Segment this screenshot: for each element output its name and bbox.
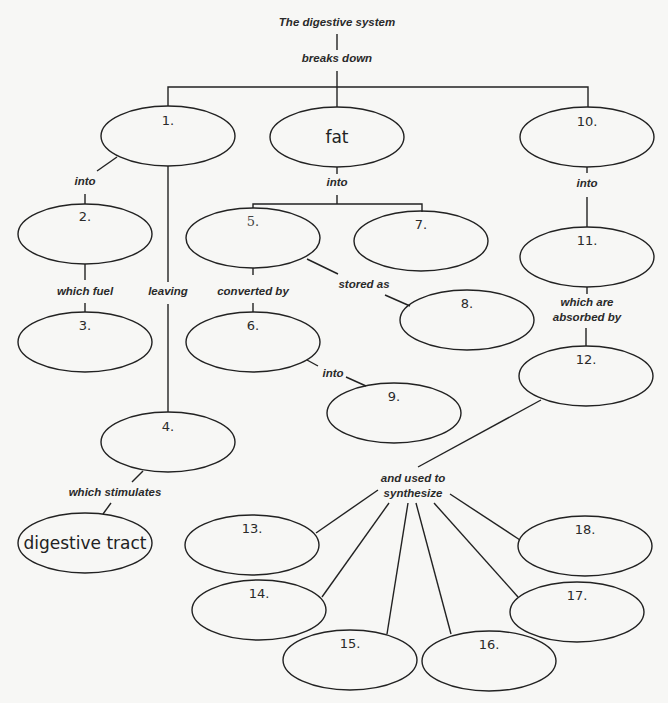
connector [97, 157, 117, 171]
node-11[interactable]: 11. [520, 227, 654, 287]
node-9-label: 9. [388, 389, 400, 404]
node-6-label: 6. [247, 318, 259, 333]
connector [416, 503, 451, 634]
connector [307, 360, 318, 366]
node-digestive-tract-label: digestive tract [23, 533, 146, 553]
node-1[interactable]: 1. [101, 106, 235, 166]
node-5[interactable]: 5. [186, 208, 320, 268]
link-which-stimulates: which stimulates [69, 486, 162, 498]
link-and-used-to: and used to [381, 472, 446, 484]
connector [346, 377, 366, 386]
node-12[interactable]: 12. [519, 346, 653, 406]
node-4-label: 4. [162, 419, 174, 434]
node-14-label: 14. [249, 586, 270, 601]
node-2[interactable]: 2. [18, 204, 152, 264]
node-8[interactable]: 8. [400, 290, 534, 350]
link-into-fat: into [326, 176, 347, 188]
connector [103, 503, 111, 514]
node-11-label: 11. [577, 233, 598, 248]
node-13[interactable]: 13. [185, 515, 319, 575]
connector [434, 503, 518, 597]
node-12-label: 12. [576, 352, 597, 367]
node-3[interactable]: 3. [18, 312, 152, 372]
node-digestive-tract[interactable]: digestive tract [18, 513, 152, 573]
node-17-label: 17. [567, 588, 588, 603]
link-into-10: into [576, 177, 597, 189]
node-10[interactable]: 10. [520, 107, 654, 167]
node-16[interactable]: 16. [422, 631, 556, 691]
node-6[interactable]: 6. [186, 312, 320, 372]
node-15[interactable]: 15. [283, 630, 417, 690]
link-breaks-down: breaks down [302, 52, 372, 64]
link-stored-as: stored as [338, 278, 389, 290]
link-leaving: leaving [148, 285, 188, 297]
link-which-fuel: which fuel [57, 285, 114, 297]
concept-map: The digestive system breaks down 1. fat … [0, 0, 668, 703]
node-1-label: 1. [162, 113, 174, 128]
link-which-are: which are [560, 296, 614, 308]
node-18[interactable]: 18. [518, 516, 652, 576]
connector [418, 400, 541, 467]
node-3-label: 3. [79, 318, 91, 333]
node-18-label: 18. [575, 522, 596, 537]
connector [387, 503, 408, 634]
link-converted-by: converted by [217, 285, 289, 297]
link-synthesize: synthesize [384, 487, 443, 499]
node-2-label: 2. [79, 209, 91, 224]
node-7[interactable]: 7. [354, 211, 488, 271]
connector [307, 259, 338, 274]
node-15-label: 15. [340, 636, 361, 651]
node-16-label: 16. [479, 637, 500, 652]
title-label: The digestive system [279, 16, 395, 28]
node-17[interactable]: 17. [510, 582, 644, 642]
node-9[interactable]: 9. [327, 383, 461, 443]
link-into-1: into [74, 175, 95, 187]
node-10-label: 10. [577, 114, 598, 129]
node-4[interactable]: 4. [101, 412, 235, 472]
link-absorbed-by: absorbed by [553, 311, 622, 323]
connector [168, 87, 588, 107]
node-7-label: 7. [415, 217, 427, 232]
node-14[interactable]: 14. [192, 580, 326, 640]
node-8-label: 8. [461, 296, 473, 311]
node-5-label: 5. [247, 214, 259, 229]
connector [385, 295, 410, 306]
connector [132, 471, 143, 482]
connector [322, 503, 389, 597]
node-fat-label: fat [325, 127, 348, 147]
connector [316, 490, 378, 533]
link-into-6: into [322, 367, 343, 379]
node-13-label: 13. [242, 521, 263, 536]
node-fat[interactable]: fat [270, 107, 404, 167]
